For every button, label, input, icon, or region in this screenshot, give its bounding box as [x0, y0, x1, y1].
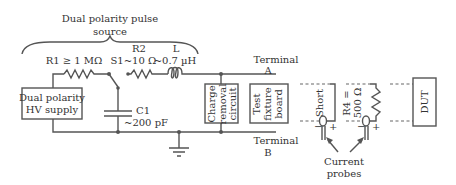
capacitor-c1-icon [104, 111, 132, 116]
r2-name-label: R2 [132, 43, 146, 54]
terminal-b-label-line1: Terminal [254, 135, 299, 146]
circuit-diagram: Dual polarity pulse source R1 ≥ 1 MΩ S1 … [0, 0, 456, 185]
probe-2-arrowhead [357, 137, 364, 144]
r4-label-line2: 500 Ω [352, 88, 363, 119]
r1-resistor-icon [64, 70, 108, 78]
source-brace [22, 36, 198, 54]
ground-icon [169, 132, 189, 156]
short-wire [326, 84, 335, 121]
r4-resistor-icon [370, 84, 380, 121]
s1-label: S1 [110, 55, 123, 66]
source-title-line1: Dual polarity pulse [62, 13, 158, 24]
terminal-b-label-line2: B [264, 147, 271, 158]
short-label: Short [314, 89, 325, 117]
hv-supply-label-line2: HV supply [26, 104, 79, 115]
probe-2-minus: − [357, 121, 365, 132]
probe-1-plus: + [329, 121, 337, 132]
r1-label: R1 ≥ 1 MΩ [46, 55, 103, 66]
inductor-l-icon [168, 68, 221, 79]
current-probe-2-cable [365, 126, 368, 140]
r2-resistor-icon [128, 70, 168, 78]
c1-value-label: ~200 pF [124, 117, 168, 128]
s1-switch-icon [109, 74, 118, 87]
c1-name-label: C1 [136, 105, 150, 116]
terminal-a-label-line1: Terminal [254, 54, 299, 65]
probe-1-minus: − [314, 121, 322, 132]
r4-label-line1: R4 = [341, 90, 352, 115]
c1-ground-node [116, 130, 120, 134]
current-probes-label-line1: Current [324, 156, 364, 167]
current-probes-label-line2: probes [327, 168, 362, 179]
dut-label: DUT [419, 90, 430, 113]
hv-to-r1-wire [53, 74, 64, 88]
terminal-a-label-line2: A [263, 65, 272, 76]
probe-2-plus: + [372, 121, 380, 132]
charge-removal-label-line3: circuit [227, 88, 238, 121]
l-name-label: L [173, 43, 180, 54]
test-fixture-label-line3: board [273, 89, 284, 119]
hv-supply-label-line1: Dual polarity [19, 92, 85, 103]
test-fixture-label-line1: Test [251, 94, 262, 115]
current-probe-1-cable [322, 126, 325, 140]
charge-removal-label-line1: Charge [206, 85, 217, 122]
l-value-label: ~0.7 µH [154, 55, 197, 66]
r2-value-label: ~10 Ω [124, 55, 157, 66]
probe-1-arrowhead [326, 137, 333, 144]
test-fixture-label-line2: fixture [262, 87, 273, 121]
